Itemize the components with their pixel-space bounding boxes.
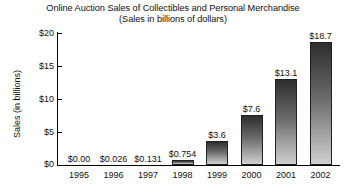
value-label-2001: $13.1	[263, 68, 309, 78]
x-tick-label-1999: 1999	[200, 170, 234, 180]
value-label-1999: $3.6	[194, 130, 240, 140]
x-tick-label-2002: 2002	[304, 170, 338, 180]
x-tick-label-1996: 1996	[97, 170, 131, 180]
x-tick-label-1997: 1997	[131, 170, 165, 180]
x-tick-label-1998: 1998	[166, 170, 200, 180]
bar-1999	[206, 141, 228, 165]
bar-2000	[241, 115, 263, 165]
value-label-2002: $18.7	[298, 31, 344, 41]
x-tick-label-2001: 2001	[269, 170, 303, 180]
bar-chart: Online Auction Sales of Collectibles and…	[0, 0, 346, 193]
x-tick-label-1995: 1995	[62, 170, 96, 180]
value-label-2000: $7.6	[229, 104, 275, 114]
bar-1998	[172, 160, 194, 165]
bar-2001	[275, 79, 297, 165]
bars-layer: $0.001995$0.0261996$0.1311997$0.7541998$…	[0, 0, 346, 193]
bar-2002	[310, 42, 332, 165]
x-tick-label-2000: 2000	[235, 170, 269, 180]
value-label-1998: $0.754	[160, 149, 206, 159]
